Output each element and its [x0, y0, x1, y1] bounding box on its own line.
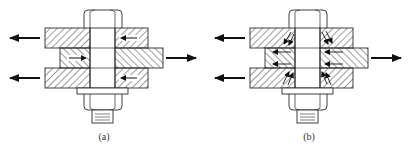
external-load-arrows: [10, 38, 196, 78]
bolted-joint-figure: (a) (b): [0, 0, 415, 151]
bottom-plate: [250, 68, 353, 88]
nut: [84, 94, 122, 110]
panel-a-label: (a): [89, 131, 119, 142]
bolt-shank: [90, 28, 115, 88]
middle-plate: [265, 48, 368, 68]
bolt-thread-end: [92, 110, 113, 123]
bolt-thread-end: [297, 110, 318, 123]
figure-canvas: [0, 0, 415, 151]
washer: [77, 88, 128, 94]
top-plate: [250, 28, 353, 48]
external-load-arrows: [215, 38, 401, 78]
nut: [289, 94, 327, 110]
panel-b-label: (b): [294, 131, 324, 142]
panel-b: [215, 10, 401, 123]
panel-a: [10, 10, 196, 123]
washer: [282, 88, 333, 94]
bolt-head: [289, 10, 327, 28]
bolt-head: [84, 10, 122, 28]
bolt-shank: [295, 28, 320, 88]
